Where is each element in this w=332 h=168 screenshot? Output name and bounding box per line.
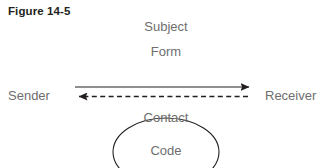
label-receiver: Receiver — [265, 89, 316, 102]
communication-model-figure: Figure 14-5 Subject Form Sender Receiver… — [0, 0, 332, 168]
label-form: Form — [0, 45, 332, 58]
label-sender: Sender — [8, 89, 50, 102]
label-contact: Contact — [0, 111, 332, 124]
label-code: Code — [0, 144, 332, 157]
label-subject: Subject — [0, 20, 332, 33]
